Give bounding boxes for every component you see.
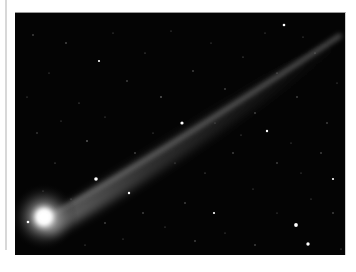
page	[0, 0, 356, 272]
left-divider-line	[5, 0, 7, 250]
comet-photograph	[15, 12, 346, 255]
comet-image-canvas	[15, 13, 346, 255]
